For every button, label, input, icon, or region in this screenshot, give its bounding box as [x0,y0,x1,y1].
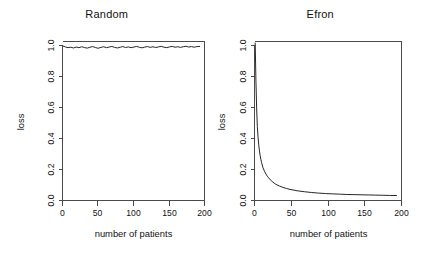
x-tick-label: 0 [60,208,65,218]
x-tick-label: 200 [394,208,409,218]
series-line-random [63,46,200,48]
y-tick-label: 0.8 [46,70,56,82]
y-axis-random: 1.0 0.8 0.6 0.4 0.2 0.0 loss [15,39,62,206]
x-tick-label: 100 [321,208,336,218]
plot-efron: 1.0 0.8 0.6 0.4 0.2 0.0 loss 0 50 100 15… [214,0,427,256]
plot-random: 1.0 0.8 0.6 0.4 0.2 0.0 loss 0 50 100 15… [0,0,214,256]
series-line-efron [255,43,396,196]
figure-container: Random 1.0 0.8 0.6 0.4 0.2 0.0 loss [0,0,427,256]
x-tick-label: 50 [286,208,296,218]
x-axis-efron: 0 50 100 150 200 number of patients [252,201,409,240]
y-tick-label: 1.0 [238,39,248,51]
y-tick-label: 1.0 [46,39,56,51]
y-axis-title: loss [15,113,26,130]
x-axis-title: number of patients [95,228,173,239]
y-tick-label: 0.0 [238,194,248,206]
y-axis-efron: 1.0 0.8 0.6 0.4 0.2 0.0 loss [216,39,254,206]
x-tick-label: 100 [126,208,141,218]
y-tick-label: 0.4 [46,132,56,144]
y-tick-label: 0.2 [46,163,56,175]
plot-box-random [63,42,205,201]
y-tick-label: 0.6 [238,101,248,113]
x-axis-random: 0 50 100 150 200 number of patients [60,201,212,240]
x-tick-label: 150 [162,208,177,218]
y-tick-label: 0.8 [238,70,248,82]
y-axis-title: loss [216,113,227,130]
x-tick-label: 0 [252,208,257,218]
panel-efron: Efron 1.0 0.8 0.6 0.4 0.2 0.0 loss [214,0,427,256]
y-tick-label: 0.4 [238,132,248,144]
panel-random: Random 1.0 0.8 0.6 0.4 0.2 0.0 loss [0,0,214,256]
y-tick-label: 0.2 [238,163,248,175]
x-axis-title: number of patients [289,228,367,239]
x-tick-label: 50 [93,208,103,218]
plot-box-efron [254,42,401,201]
x-tick-label: 150 [357,208,372,218]
x-tick-label: 200 [197,208,212,218]
y-tick-label: 0.0 [46,194,56,206]
y-tick-label: 0.6 [46,101,56,113]
